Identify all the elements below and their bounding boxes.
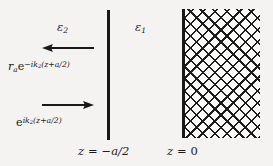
axis-interface-value: −a/2	[101, 144, 129, 158]
epsilon-2-subscript: 2	[63, 26, 68, 35]
reflected-wave-expression: rae−ik2(z+a/2)	[8, 61, 70, 73]
hatched-dielectric-slab	[182, 9, 260, 138]
reflected-exponent: −ik2(z+a/2)	[24, 60, 69, 69]
epsilon-1-subscript: 1	[141, 26, 146, 35]
incident-exponent: ik2(z+a/2)	[23, 116, 62, 125]
axis-label-slab-face: z = 0	[167, 146, 198, 158]
axis-slab-value: 0	[190, 144, 197, 158]
axis-slab-equals: =	[173, 144, 190, 158]
incident-wave-expression: eik2(z+a/2)	[16, 117, 62, 128]
reflected-wave-arrow-left	[42, 41, 94, 55]
axis-label-interface: z = −a/2	[78, 146, 130, 158]
permittivity-label-epsilon-2: ɛ2	[57, 22, 68, 34]
exponential-base-incident: e	[16, 116, 23, 129]
interface-line-z-minus-a-over-2	[107, 10, 110, 140]
incident-wave-arrow-right	[42, 98, 94, 112]
physics-figure-canvas: ɛ2 ɛ1 rae−ik2(z+a/2) eik2(z+a/2) z = −a/…	[0, 0, 273, 166]
incident-exponent-argument: (z+a/2)	[33, 116, 62, 125]
axis-interface-equals: =	[84, 144, 101, 158]
slab-left-edge-z-zero	[182, 9, 185, 138]
reflected-exponent-argument: (z+a/2)	[41, 60, 70, 69]
permittivity-label-epsilon-1: ɛ1	[135, 22, 146, 34]
